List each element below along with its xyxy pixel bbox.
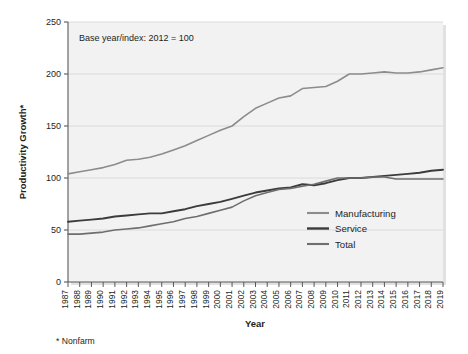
x-tick-label: 2005 [271,290,281,309]
x-tick-label: 2015 [388,290,398,309]
x-tick-label: 2007 [294,290,304,309]
x-tick-label: 1994 [142,290,152,309]
legend-label-manufacturing: Manufacturing [335,208,396,219]
legend-label-service: Service [335,223,367,234]
x-tick-label: 2016 [400,290,410,309]
x-tick-label: 2003 [248,290,258,309]
x-axis-ticks: 1987198819891990199119921993199419951996… [60,282,445,309]
y-tick-label: 0 [56,277,61,287]
x-tick-label: 2009 [318,290,328,309]
y-axis-title: Productivity Growth* [17,104,28,199]
y-axis-ticks: 050100150200250 [46,17,68,287]
plot-background [68,22,443,282]
x-tick-label: 1993 [130,290,140,309]
x-tick-label: 1992 [119,290,129,309]
legend-label-total: Total [335,239,355,250]
footnote: * Nonfarm [56,336,95,346]
x-tick-label: 2013 [365,290,375,309]
productivity-growth-chart-figure: 050100150200250 198719881989199019911992… [0,0,468,354]
x-tick-label: 1996 [165,290,175,309]
x-tick-label: 2012 [353,290,363,309]
x-axis-title: Year [245,318,265,329]
x-tick-label: 1988 [72,290,82,309]
y-tick-label: 150 [46,121,61,131]
y-tick-label: 100 [46,173,61,183]
x-tick-label: 2002 [236,290,246,309]
x-tick-label: 1990 [95,290,105,309]
y-tick-label: 250 [46,17,61,27]
x-tick-label: 1999 [201,290,211,309]
line-chart: 050100150200250 198719881989199019911992… [0,0,468,354]
x-tick-label: 1995 [154,290,164,309]
base-year-annotation: Base year/index: 2012 = 100 [79,33,194,43]
x-tick-label: 2017 [412,290,422,309]
x-tick-label: 1998 [189,290,199,309]
x-tick-label: 2010 [330,290,340,309]
y-tick-label: 50 [51,225,61,235]
x-tick-label: 1991 [107,290,117,309]
x-tick-label: 2014 [376,290,386,309]
x-tick-label: 1987 [60,290,70,309]
x-tick-label: 2019 [435,290,445,309]
x-tick-label: 2004 [259,290,269,309]
x-tick-label: 2018 [423,290,433,309]
x-tick-label: 2011 [341,290,351,308]
y-tick-label: 200 [46,69,61,79]
x-tick-label: 2000 [212,290,222,309]
x-tick-label: 2006 [283,290,293,309]
x-tick-label: 1989 [83,290,93,309]
x-tick-label: 1997 [177,290,187,309]
x-tick-label: 2008 [306,290,316,309]
x-tick-label: 2001 [224,290,234,309]
